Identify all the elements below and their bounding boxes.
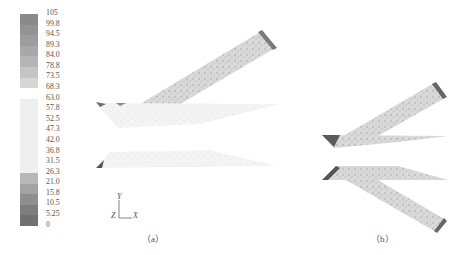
panel-a-lower-plate: [96, 150, 276, 168]
caption-a: （a）: [142, 232, 164, 245]
axis-y-label: Y: [117, 192, 121, 201]
caption-b: （b）: [371, 232, 394, 245]
axis-z-label: Z: [111, 211, 115, 220]
panel-a-upper-plate: [96, 103, 280, 128]
panel-b-lower-plate: [322, 166, 448, 180]
panel-b-lower-arm: [346, 172, 446, 232]
axis-triad: [119, 200, 132, 218]
figure-panels: [0, 0, 458, 255]
panel-b: [322, 82, 448, 233]
axis-x-label: X: [133, 211, 138, 220]
panel-a: [96, 30, 280, 168]
panel-b-upper-plate: [322, 135, 448, 148]
